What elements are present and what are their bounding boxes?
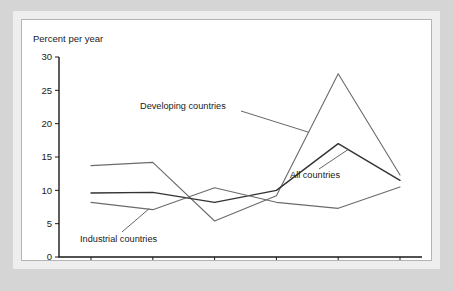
axis-lines xyxy=(59,57,422,257)
annotation-developing-countries: Developing countries xyxy=(140,101,226,111)
series-line-developing-countries xyxy=(91,74,400,221)
annotation-industrial-countries: Industrial countries xyxy=(80,234,158,244)
y-tick-label: 5 xyxy=(47,218,52,229)
chart-card: Percent per year 051015202530 1962–19721… xyxy=(21,19,432,261)
y-axis-title: Percent per year xyxy=(33,33,103,44)
y-tick-label: 30 xyxy=(41,51,52,62)
leader-line-all-countries xyxy=(319,150,348,170)
leader-line-developing-countries xyxy=(241,111,309,132)
series-line-industrial-countries xyxy=(91,187,400,210)
y-tick-label: 25 xyxy=(41,85,52,96)
y-tick-label: 20 xyxy=(41,118,52,129)
series-line-all-countries xyxy=(91,144,400,203)
series-group xyxy=(91,74,400,221)
leader-line-industrial-countries xyxy=(122,209,149,232)
annotation-group: Developing countriesAll countriesIndustr… xyxy=(80,101,348,244)
y-tick-label: 15 xyxy=(41,151,52,162)
page-root: Percent per year 051015202530 1962–19721… xyxy=(0,0,453,291)
y-tick-label: 0 xyxy=(47,251,52,260)
y-tick-group: 051015202530 xyxy=(41,51,59,260)
line-chart: Percent per year 051015202530 1962–19721… xyxy=(22,20,431,260)
annotation-all-countries: All countries xyxy=(290,170,340,180)
y-tick-label: 10 xyxy=(41,185,52,196)
